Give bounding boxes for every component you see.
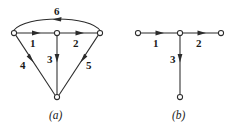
edge-4-arrowhead bbox=[27, 54, 34, 63]
node-b-left[interactable] bbox=[135, 30, 140, 35]
caption-graph-b: (b) bbox=[172, 110, 185, 122]
edge-label-a-3: 3 bbox=[47, 54, 53, 65]
directed-graph-figure: 1 2 3 4 5 6 1 2 3 (a) (b) bbox=[0, 0, 232, 129]
edge-2-arrowhead bbox=[76, 31, 85, 36]
node-a-center[interactable] bbox=[54, 30, 59, 35]
edge-label-a-5: 5 bbox=[86, 60, 92, 71]
edge-label-b-1: 1 bbox=[153, 38, 159, 49]
node-a-left[interactable] bbox=[11, 30, 16, 35]
node-a-bottom[interactable] bbox=[54, 94, 59, 99]
edge-1-arrowhead bbox=[32, 31, 41, 36]
edge-label-a-4: 4 bbox=[20, 60, 26, 71]
graph-drawing-canvas bbox=[0, 0, 232, 129]
graph-b bbox=[135, 30, 223, 99]
edge-label-a-1: 1 bbox=[30, 38, 36, 49]
node-b-right[interactable] bbox=[218, 30, 223, 35]
edge-label-a-2: 2 bbox=[73, 38, 79, 49]
node-a-right[interactable] bbox=[97, 30, 102, 35]
edge-label-b-3: 3 bbox=[170, 54, 176, 65]
node-b-center[interactable] bbox=[177, 30, 182, 35]
edge-label-b-2: 2 bbox=[196, 38, 202, 49]
edge-6-line bbox=[14, 19, 101, 31]
b-edge-3-arrowhead bbox=[178, 54, 183, 63]
edge-label-a-6: 6 bbox=[54, 6, 60, 17]
b-edge-2-arrowhead bbox=[198, 31, 207, 36]
edge-3-arrowhead bbox=[55, 54, 60, 63]
caption-graph-a: (a) bbox=[49, 110, 62, 122]
b-edge-1-arrowhead bbox=[156, 31, 165, 36]
node-b-bottom[interactable] bbox=[177, 94, 182, 99]
